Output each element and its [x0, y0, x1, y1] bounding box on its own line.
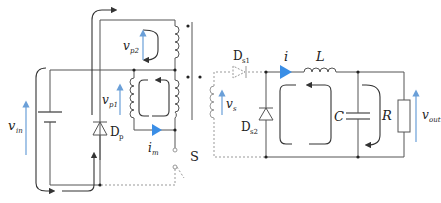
label-v-out: v out	[422, 108, 441, 124]
svg-text:p1: p1	[109, 101, 118, 109]
svg-text:s2: s2	[250, 128, 258, 136]
inductor-l	[304, 68, 336, 72]
circuit-svg: v in v p1 v p2 D p i m S v s D s1 D s2 i…	[0, 0, 441, 203]
svg-text:v: v	[226, 97, 233, 111]
coil-p2	[175, 26, 179, 58]
label-v-s: v s	[226, 97, 237, 113]
svg-text:s1: s1	[242, 57, 250, 65]
label-i: i	[284, 49, 288, 64]
label-c: C	[334, 109, 344, 124]
label-i-m: i m	[148, 141, 159, 157]
current-arrow-i	[280, 65, 292, 79]
svg-text:p2: p2	[130, 47, 139, 55]
svg-text:s: s	[233, 105, 237, 113]
circuit-diagram: v in v p1 v p2 D p i m S v s D s1 D s2 i…	[0, 0, 441, 203]
current-arrow-i-m	[152, 124, 162, 136]
label-v-p2: v p2	[123, 39, 139, 55]
svg-text:v: v	[8, 118, 16, 133]
label-d-s1: D s1	[233, 49, 250, 65]
switch-s	[100, 148, 184, 185]
svg-text:p: p	[119, 133, 124, 141]
label-v-in: v in	[8, 118, 23, 135]
junction-dots-secondary	[264, 70, 359, 158]
svg-text:m: m	[152, 149, 159, 157]
diode-d-s2	[259, 108, 273, 120]
coil-p1-left	[130, 78, 134, 118]
secondary-current-loops	[280, 85, 380, 145]
resistor-r	[398, 100, 410, 132]
coil-p1-right	[175, 80, 179, 118]
svg-text:v: v	[123, 39, 130, 53]
svg-text:out: out	[429, 116, 441, 124]
svg-text:in: in	[16, 127, 23, 135]
capacitor-c	[346, 113, 370, 119]
label-l: L	[315, 49, 325, 64]
battery-v-in	[38, 112, 62, 122]
secondary-coil	[210, 86, 214, 118]
diode-d-s1	[233, 66, 246, 78]
svg-text:v: v	[422, 108, 429, 122]
label-v-p1: v p1	[102, 93, 118, 109]
label-r: R	[381, 108, 392, 123]
label-s: S	[190, 149, 199, 164]
label-d-p: D p	[110, 125, 124, 141]
polarity-dots	[186, 24, 201, 78]
label-d-s2: D s2	[241, 120, 258, 136]
svg-text:v: v	[102, 93, 109, 107]
